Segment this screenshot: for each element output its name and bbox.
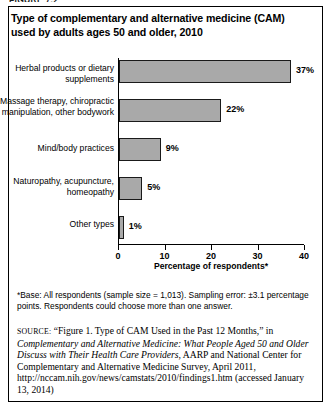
category-label: Herbal products or dietary supplements [0,63,114,84]
chart-title: Type of complementary and alternative me… [11,11,301,39]
bar-chart: Herbal products or dietary supplements M… [4,52,309,280]
source-text-part1: “Figure 1. Type of CAM Used in the Past … [51,325,273,336]
x-axis-tick-label: 40 [299,251,309,261]
chart-source: source: “Figure 1. Type of CAM Used in t… [17,325,315,396]
x-axis-tick-label: 20 [206,251,216,261]
x-axis-tick [118,245,119,250]
x-axis-tick [304,245,305,250]
x-axis-tick [165,245,166,250]
chart-footnote: *Base: All respondents (sample size = 1,… [17,290,314,312]
x-axis-title: Percentage of respondents* [118,261,304,271]
source-keyword: source: [17,327,51,336]
x-axis-tick-label: 10 [159,251,169,261]
x-axis-tick [258,245,259,250]
y-axis-line [118,58,119,244]
plot-area: 0 10 20 30 40 [118,58,304,244]
figure-page: FIGURE 7.2 Type of complementary and alt… [0,0,331,409]
category-label: Naturopathy, acupuncture, homeopathy [0,176,114,197]
figure-number: FIGURE 7.2 [9,0,58,2]
category-label: Mind/body practices [0,143,114,154]
category-label: Massage therapy, chiropractic manipulati… [0,96,114,117]
category-label: Other types [0,219,114,230]
x-axis-tick [211,245,212,250]
x-axis-tick-label: 0 [115,251,120,261]
x-axis-tick-label: 30 [252,251,262,261]
